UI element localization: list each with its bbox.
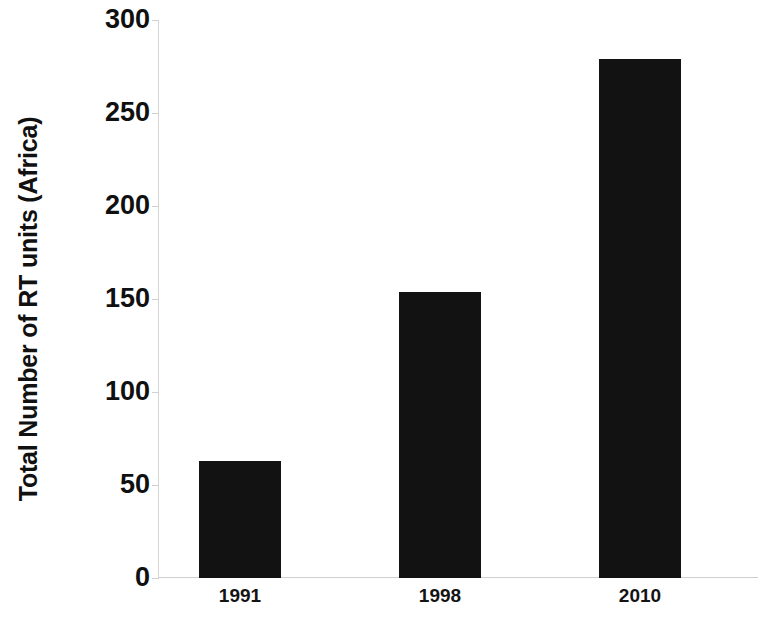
y-axis-tick-label: 150: [30, 285, 150, 312]
bar-2010: [599, 59, 681, 578]
y-axis-tick-label-group: 050100150200250300: [18, 0, 150, 618]
x-axis-tick-label-group: 199119982010: [158, 586, 758, 618]
y-axis-tick-label: 250: [30, 99, 150, 126]
y-axis-tick-label: 200: [30, 192, 150, 219]
y-axis-tick-mark: [152, 299, 159, 300]
y-axis-tick-mark: [152, 113, 159, 114]
y-axis-tick-mark: [152, 392, 159, 393]
bar-1998: [399, 292, 481, 578]
y-axis-tick-mark: [152, 206, 159, 207]
y-axis-tick-label: 0: [30, 564, 150, 591]
x-axis-tick-label: 1998: [380, 586, 500, 605]
y-axis-tick-label: 50: [30, 471, 150, 498]
bar-chart-figure: Total Number of RT units (Africa) 050100…: [0, 0, 771, 618]
bar-1991: [199, 461, 281, 578]
x-axis-tick-label: 1991: [180, 586, 300, 605]
y-axis-tick-label: 100: [30, 378, 150, 405]
y-axis-tick-label: 300: [30, 6, 150, 33]
y-axis-tick-mark: [152, 485, 159, 486]
plot-area: [158, 20, 758, 578]
y-axis-tick-mark: [152, 578, 159, 579]
y-axis-tick-mark: [152, 20, 159, 21]
x-axis-tick-label: 2010: [580, 586, 700, 605]
